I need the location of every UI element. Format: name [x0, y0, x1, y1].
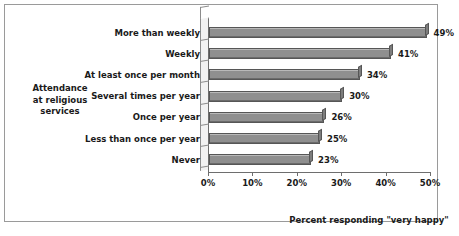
bar[interactable] [209, 91, 342, 102]
bar[interactable] [209, 48, 391, 59]
x-axis-title: Percent responding "very happy" [203, 215, 459, 225]
category-label: Never [50, 155, 200, 165]
category-label: Once per year [50, 112, 200, 122]
category-label: At least once per month [50, 70, 200, 80]
bar-body [209, 154, 311, 165]
bar-value-label: 26% [331, 112, 351, 122]
bar-end-cap [340, 86, 344, 99]
bar-value-label: 34% [367, 70, 387, 80]
bar-value-label: 30% [349, 91, 369, 101]
category-label: Several times per year [50, 91, 200, 101]
bar-body [209, 48, 391, 59]
bar-body [209, 69, 360, 80]
bar[interactable] [209, 27, 427, 38]
bar[interactable] [209, 133, 320, 144]
x-axis-tick [208, 172, 209, 176]
x-axis-tick-label: 0% [191, 178, 225, 188]
bar[interactable] [209, 154, 311, 165]
category-label: More than weekly [50, 28, 200, 38]
bar-end-cap [318, 129, 322, 142]
bar-body [209, 27, 427, 38]
bar-value-label: 49% [434, 28, 454, 38]
x-axis-tick-label: 20% [280, 178, 314, 188]
x-axis-tick [297, 172, 298, 176]
chart-frame: Attendance at religious services Percent… [4, 4, 438, 222]
x-axis-tick-label: 50% [413, 178, 447, 188]
bar-value-label: 23% [318, 155, 338, 165]
bar-end-cap [425, 23, 429, 36]
x-axis-tick [386, 172, 387, 176]
bar-body [209, 91, 342, 102]
bar-end-cap [309, 150, 313, 163]
bar-end-cap [389, 44, 393, 57]
bar-body [209, 133, 320, 144]
x-axis-line [208, 172, 430, 173]
bar[interactable] [209, 69, 360, 80]
category-label: Weekly [50, 49, 200, 59]
x-axis-tick-label: 10% [235, 178, 269, 188]
x-axis-tick [430, 172, 431, 176]
bar-end-cap [322, 107, 326, 120]
bar-body [209, 112, 324, 123]
category-label: Less than once per year [50, 134, 200, 144]
x-axis-tick-label: 40% [369, 178, 403, 188]
x-axis-tick [252, 172, 253, 176]
bar-value-label: 25% [327, 134, 347, 144]
bar-end-cap [358, 65, 362, 78]
x-axis-tick [341, 172, 342, 176]
plot-area: Percent responding "very happy" 0%10%20%… [104, 19, 436, 179]
x-axis-tick-label: 30% [324, 178, 358, 188]
bar[interactable] [209, 112, 324, 123]
bar-value-label: 41% [398, 49, 418, 59]
